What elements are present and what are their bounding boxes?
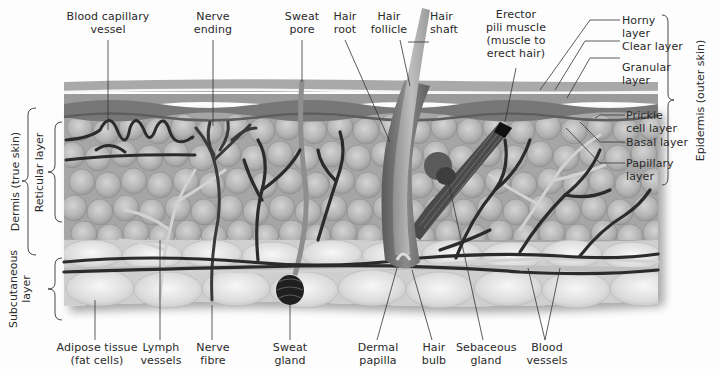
label-sweat-gland: Sweat gland [268,341,312,367]
label-papillary-layer: Papillary layer [626,157,674,183]
subcutaneous-bracket [48,258,62,320]
label-lymph-vessels: Lymph vessels [140,341,182,367]
label-dermal-papilla: Dermal papilla [356,341,400,367]
reticular-bracket [48,122,62,222]
label-hair-follicle: Hair follicle [364,10,414,36]
label-hair-root: Hair root [330,10,360,36]
label-subcutaneous-layer: Subcutaneous layer [7,249,33,329]
label-nerve-ending: Nerve ending [188,10,238,36]
label-hair-shaft: Hair shaft [430,10,470,36]
label-erector-pili-muscle: Erector pili muscle (muscle to erect hai… [480,8,552,60]
label-dermis: Dermis (true skin) [9,132,22,232]
label-hair-bulb: Hair bulb [420,341,448,367]
label-blood-vessels: Blood vessels [524,341,570,367]
label-sweat-pore: Sweat pore [277,10,327,36]
label-prickle-cell-layer: Prickle cell layer [626,109,677,135]
label-nerve-fibre: Nerve fibre [192,341,234,367]
label-adipose-tissue: Adipose tissue (fat cells) [55,341,139,367]
label-sebaceous-gland: Sebaceous gland [456,341,516,367]
label-blood-capillary-vessel: Blood capillary vessel [60,10,156,36]
label-clear-layer: Clear layer [622,40,683,53]
label-horny-layer: Horny layer [622,14,655,40]
label-granular-layer: Granular layer [622,61,671,87]
label-basal-layer: Basal layer [626,136,688,149]
sweat-gland-coil [276,275,304,305]
label-reticular-layer: Reticular layer [33,128,46,218]
epidermis-layers [64,79,658,121]
label-epidermis: Epidermis (outer skin) [694,31,707,171]
